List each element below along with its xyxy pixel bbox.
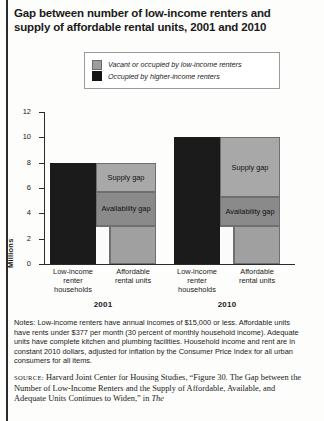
- figure-source: SOURCE: Harvard Joint Center for Housing…: [14, 373, 308, 405]
- bar-gap-filler: [96, 226, 110, 264]
- y-axis-label: Millions: [6, 238, 15, 268]
- bar-segment: [234, 226, 280, 264]
- supply-gap-annotation: Supply gap: [96, 163, 156, 192]
- legend-label-vacant-low-income: Vacant or occupied by low-income renters: [108, 60, 242, 69]
- annotation-label: Availability gap: [97, 204, 155, 213]
- bar: [174, 137, 220, 264]
- group-year-label: 2001: [40, 300, 166, 309]
- source-prefix: SOURCE:: [14, 374, 44, 381]
- legend-item-vacant-low-income: Vacant or occupied by low-income renters: [92, 60, 272, 70]
- black-swatch-icon: [92, 71, 102, 81]
- annotation-label: Supply gap: [221, 163, 279, 172]
- y-axis-tick-label: 6: [27, 184, 31, 192]
- group-year-label: 2010: [164, 300, 290, 309]
- legend-item-higher-income: Occupied by higher-income renters: [92, 71, 272, 81]
- gray-swatch-icon: [92, 60, 102, 70]
- legend-label-higher-income: Occupied by higher-income renters: [108, 72, 220, 81]
- y-axis-tick: 12: [39, 112, 44, 113]
- figure-notes: Notes: Low-income renters have annual in…: [14, 318, 304, 366]
- y-axis-tick: 8: [39, 163, 44, 164]
- annotation-label: Supply gap: [97, 173, 155, 182]
- supply-gap-annotation: Supply gap: [220, 137, 280, 197]
- x-axis-category-label: Affordable rental units: [220, 267, 294, 285]
- bar-segment: [50, 163, 96, 264]
- plot-region: 024681012Supply gapAvailability gapLow-i…: [44, 112, 294, 264]
- y-axis-tick: 4: [39, 213, 44, 214]
- bar: [50, 163, 96, 264]
- annotation-label: Availability gap: [221, 207, 279, 216]
- y-axis-tick-label: 10: [23, 134, 31, 142]
- chart-legend: Vacant or occupied by low-income renters…: [84, 52, 280, 89]
- chart-area: Millions 024681012Supply gapAvailability…: [0, 100, 306, 310]
- bar-segment: [110, 226, 156, 264]
- source-italic-tail: The: [151, 394, 164, 403]
- figure-title: Gap between number of low-income renters…: [14, 0, 304, 34]
- y-axis-tick: 6: [39, 188, 44, 189]
- availability-gap-annotation: Availability gap: [96, 192, 156, 226]
- y-axis-tick-label: 4: [27, 210, 31, 218]
- availability-gap-annotation: Availability gap: [220, 197, 280, 226]
- y-axis-tick-label: 12: [23, 108, 31, 116]
- y-axis-tick: 2: [39, 239, 44, 240]
- y-axis-tick-label: 0: [27, 260, 31, 268]
- x-axis-category-label: Affordable rental units: [96, 267, 170, 285]
- y-axis-tick-label: 2: [27, 235, 31, 243]
- y-axis-tick-label: 8: [27, 159, 31, 167]
- bar-gap-filler: [220, 226, 234, 264]
- y-axis-tick: 10: [39, 137, 44, 138]
- y-axis-tick: 0: [39, 264, 44, 265]
- bar-segment: [174, 137, 220, 264]
